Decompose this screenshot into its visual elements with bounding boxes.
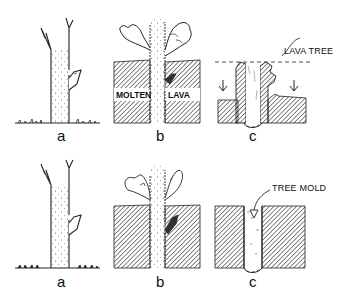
panel-letter: a <box>57 273 66 290</box>
label-molten: MOLTEN <box>116 90 151 100</box>
diagram-canvas: a MOLTEN LAVA b <box>0 0 339 297</box>
label-lava-tree: LAVA TREE <box>284 46 333 56</box>
panel-letter: b <box>156 127 164 144</box>
panel-row2-b <box>114 165 200 268</box>
panel-letter: c <box>249 273 257 290</box>
panel-letter: a <box>57 127 66 144</box>
panel-row1-a <box>15 18 100 123</box>
panel-letter: c <box>249 127 257 144</box>
label-lava: LAVA <box>168 90 190 100</box>
panel-letter: b <box>156 273 164 290</box>
panel-row2-a <box>15 160 100 268</box>
panel-row1-b <box>114 18 200 123</box>
panel-row2-c <box>215 190 305 273</box>
label-tree-mold: TREE MOLD <box>272 183 327 193</box>
